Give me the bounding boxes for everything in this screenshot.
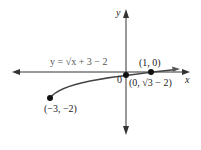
y-axis-up-arrow-icon [123,9,129,18]
point-yint-label: (0, √3 − 2) [129,78,172,88]
point-x-intercept [148,69,154,75]
point-start-label: (−3, −2) [44,104,77,114]
x-axis-label: x [185,75,189,85]
equation-label: y = √x + 3 − 2 [50,57,107,67]
point-start [47,95,53,101]
graph-canvas [0,0,201,150]
curve-arrow-icon [172,67,180,72]
x-axis-left-arrow-icon [12,69,20,75]
y-axis-down-arrow-icon [123,126,129,135]
origin-label: 0 [117,75,122,85]
y-axis-label: y [116,8,120,18]
point-xint-label: (1, 0) [139,58,161,68]
